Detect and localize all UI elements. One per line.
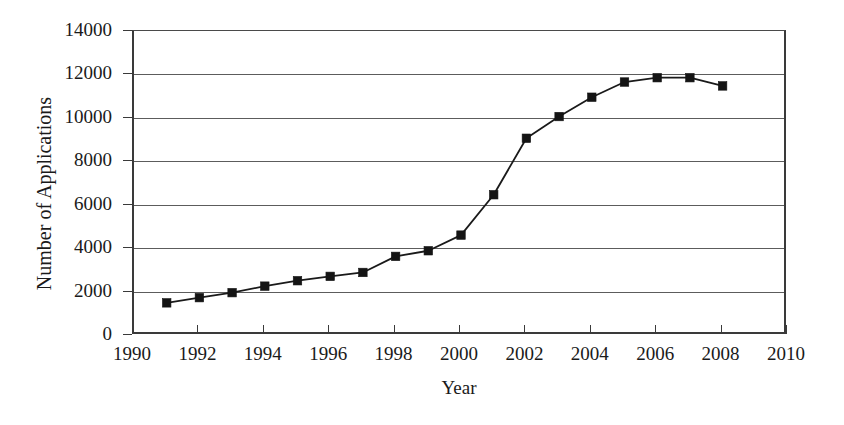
data-point-2001 bbox=[489, 190, 498, 199]
data-point-2000 bbox=[457, 231, 466, 240]
data-point-1993 bbox=[228, 288, 237, 297]
data-point-2003 bbox=[555, 112, 564, 121]
series-markers bbox=[162, 73, 726, 307]
data-point-1998 bbox=[391, 252, 400, 261]
x-tick-1998 bbox=[394, 325, 395, 334]
y-tick-14000 bbox=[123, 30, 132, 31]
x-tick-1992 bbox=[197, 325, 198, 334]
data-point-1999 bbox=[424, 247, 433, 256]
x-tick-label-1994: 1994 bbox=[244, 344, 282, 363]
x-tick-2008 bbox=[721, 325, 722, 334]
x-axis-title: Year bbox=[132, 377, 786, 399]
y-tick-0 bbox=[123, 334, 132, 335]
series-line bbox=[167, 78, 723, 303]
data-point-1996 bbox=[326, 272, 335, 281]
y-axis-tick-labels: 02000400060008000100001200014000 bbox=[0, 0, 112, 425]
y-tick-2000 bbox=[123, 291, 132, 292]
data-point-2007 bbox=[686, 73, 695, 82]
data-point-1994 bbox=[261, 282, 270, 291]
x-tick-2000 bbox=[459, 325, 460, 334]
y-tick-8000 bbox=[123, 160, 132, 161]
data-point-1997 bbox=[359, 268, 368, 277]
x-tick-1996 bbox=[328, 325, 329, 334]
data-point-2005 bbox=[620, 78, 629, 87]
data-point-2006 bbox=[653, 73, 662, 82]
x-tick-label-1996: 1996 bbox=[309, 344, 347, 363]
x-tick-label-2010: 2010 bbox=[767, 344, 805, 363]
x-tick-label-1998: 1998 bbox=[375, 344, 413, 363]
x-tick-1994 bbox=[263, 325, 264, 334]
y-tick-label-2000: 2000 bbox=[74, 281, 112, 300]
x-tick-2006 bbox=[655, 325, 656, 334]
x-tick-label-2004: 2004 bbox=[571, 344, 609, 363]
x-tick-2010 bbox=[786, 325, 787, 334]
y-tick-label-10000: 10000 bbox=[65, 107, 113, 126]
data-point-1991 bbox=[162, 299, 171, 308]
x-tick-1990 bbox=[132, 325, 133, 334]
y-tick-4000 bbox=[123, 247, 132, 248]
y-tick-label-12000: 12000 bbox=[65, 63, 113, 82]
y-tick-10000 bbox=[123, 117, 132, 118]
y-tick-label-0: 0 bbox=[103, 324, 113, 343]
y-tick-label-4000: 4000 bbox=[74, 237, 112, 256]
y-tick-6000 bbox=[123, 204, 132, 205]
y-tick-label-6000: 6000 bbox=[74, 194, 112, 213]
x-tick-2002 bbox=[524, 325, 525, 334]
y-axis-title: Number of Applications bbox=[33, 44, 56, 344]
data-point-2004 bbox=[588, 93, 597, 102]
plot-area bbox=[132, 30, 786, 334]
line-chart: 02000400060008000100001200014000 1990199… bbox=[0, 0, 844, 425]
data-point-2008 bbox=[718, 82, 727, 91]
data-point-1995 bbox=[293, 276, 302, 285]
x-tick-label-2006: 2006 bbox=[636, 344, 674, 363]
x-tick-label-2002: 2002 bbox=[505, 344, 543, 363]
x-tick-2004 bbox=[590, 325, 591, 334]
data-point-2002 bbox=[522, 134, 531, 143]
y-tick-label-8000: 8000 bbox=[74, 150, 112, 169]
y-tick-label-14000: 14000 bbox=[65, 20, 113, 39]
x-tick-label-2008: 2008 bbox=[702, 344, 740, 363]
x-tick-label-1990: 1990 bbox=[113, 344, 151, 363]
x-tick-label-1992: 1992 bbox=[178, 344, 216, 363]
series-applications bbox=[134, 31, 788, 335]
data-point-1992 bbox=[195, 293, 204, 302]
x-tick-label-2000: 2000 bbox=[440, 344, 478, 363]
y-tick-12000 bbox=[123, 73, 132, 74]
